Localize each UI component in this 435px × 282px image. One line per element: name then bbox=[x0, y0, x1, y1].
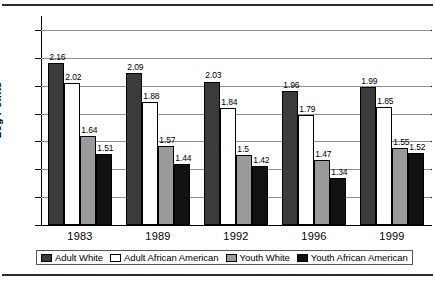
x-tick-label-1983: 1983 bbox=[41, 230, 119, 242]
legend-swatch-icon bbox=[297, 254, 308, 262]
bar bbox=[360, 87, 376, 225]
bar bbox=[376, 107, 392, 225]
bottom-divider-rule bbox=[2, 274, 433, 276]
bar bbox=[408, 153, 424, 225]
x-tick-label-1989: 1989 bbox=[119, 230, 197, 242]
bar bbox=[392, 148, 408, 225]
x-tick-label-1996: 1996 bbox=[275, 230, 353, 242]
bar-value-label: 1.55 bbox=[393, 137, 409, 147]
legend-item-1[interactable]: Adult African American bbox=[110, 252, 218, 263]
bar-value-label: 1.85 bbox=[377, 96, 393, 106]
x-axis-line bbox=[41, 225, 432, 226]
x-tick-label-1992: 1992 bbox=[197, 230, 275, 242]
x-tick-label-1999: 1999 bbox=[353, 230, 431, 242]
legend-swatch-icon bbox=[226, 254, 237, 262]
top-divider-rule bbox=[2, 4, 433, 6]
y-axis-title: Log Points bbox=[0, 82, 3, 138]
legend-swatch-icon bbox=[41, 254, 52, 262]
y-tick-mark-right bbox=[425, 225, 432, 226]
legend-label: Youth White bbox=[240, 252, 290, 263]
legend-item-0[interactable]: Adult White bbox=[41, 252, 103, 263]
legend-item-3[interactable]: Youth African American bbox=[297, 252, 408, 263]
legend-swatch-icon bbox=[110, 254, 121, 262]
bar-value-label: 1.52 bbox=[409, 142, 425, 152]
plot-area: 2.162.021.641.512.091.881.571.442.031.84… bbox=[41, 16, 431, 225]
y-tick-mark bbox=[35, 225, 42, 226]
legend-label: Adult African American bbox=[124, 252, 218, 263]
bar-value-label: 1.99 bbox=[361, 76, 377, 86]
chart-legend: Adult WhiteAdult African AmericanYouth W… bbox=[36, 250, 413, 265]
legend-item-2[interactable]: Youth White bbox=[226, 252, 290, 263]
legend-label: Adult White bbox=[55, 252, 103, 263]
chart-figure: Log Points 1.01.21.41.61.82.02.22.4 2.16… bbox=[0, 0, 435, 282]
bar-group-1999: 1.991.851.551.52 bbox=[41, 16, 431, 225]
legend-label: Youth African American bbox=[311, 252, 408, 263]
